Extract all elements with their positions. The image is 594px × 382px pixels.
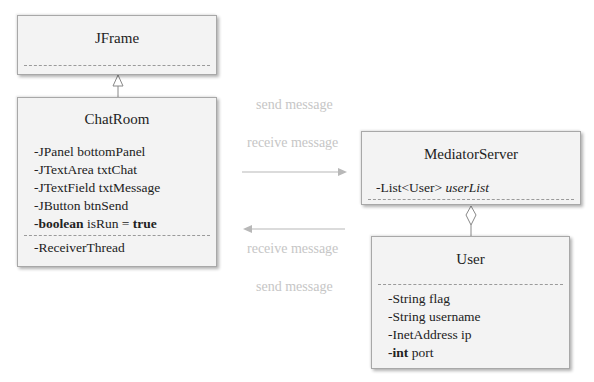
attribute-list: -JPanel bottomPanel -JTextArea txtChat -… — [34, 143, 160, 233]
class-name: User — [372, 251, 569, 268]
attr-type: InetAddress — [393, 327, 458, 342]
attribute-separator — [378, 284, 563, 285]
class-name: MediatorServer — [362, 146, 580, 163]
attr-name: btnSend — [84, 198, 128, 213]
attr-type: JTextArea — [39, 162, 94, 177]
attr-type: int — [393, 345, 409, 360]
label-receive-message-bottom: receive message — [247, 241, 338, 257]
attr-name: bottomPanel — [77, 144, 145, 159]
label-send-message-bottom: send message — [256, 279, 333, 295]
attribute: -boolean isRun = true — [34, 215, 160, 233]
attr-name: txtMessage — [99, 180, 161, 195]
attr-type: List<User> — [381, 180, 443, 195]
message-arrow-right — [242, 168, 347, 176]
message-arrow-left — [243, 225, 345, 233]
attr-default-value: true — [133, 216, 157, 231]
attribute: -List<User> userList — [376, 179, 489, 197]
attribute: -JTextArea txtChat — [34, 161, 160, 179]
aggregation-connector — [466, 206, 476, 236]
attr-type: JTextField — [39, 180, 96, 195]
attribute: -JPanel bottomPanel — [34, 143, 160, 161]
operation-separator — [24, 235, 210, 236]
class-chatroom[interactable]: ChatRoom -JPanel bottomPanel -JTextArea … — [17, 97, 217, 267]
attr-name: isRun — [87, 216, 119, 231]
generalization-arrow — [113, 75, 123, 97]
attr-name: port — [412, 345, 434, 360]
attr-name: flag — [429, 291, 450, 306]
attribute: -JTextField txtMessage — [34, 179, 160, 197]
attribute-separator — [368, 199, 574, 200]
attribute: -JButton btnSend — [34, 197, 160, 215]
attribute-list: -List<User> userList — [376, 179, 489, 197]
operation: -ReceiverThread — [34, 239, 125, 257]
attr-name: username — [429, 309, 481, 324]
attribute: -int port — [388, 344, 481, 362]
attr-type: JPanel — [39, 144, 74, 159]
attribute: -InetAddress ip — [388, 326, 481, 344]
attribute-separator — [24, 65, 210, 66]
class-user[interactable]: User -String flag -String username -Inet… — [371, 236, 570, 369]
attr-type: String — [393, 291, 426, 306]
class-mediatorserver[interactable]: MediatorServer -List<User> userList — [361, 131, 581, 205]
label-send-message-top: send message — [256, 97, 333, 113]
attr-name: txtChat — [97, 162, 137, 177]
class-name: ChatRoom — [18, 111, 216, 128]
attribute-list: -String flag -String username -InetAddre… — [388, 290, 481, 362]
attr-name: userList — [446, 180, 490, 195]
attr-type: String — [393, 309, 426, 324]
attribute: -String username — [388, 308, 481, 326]
attr-name: ip — [461, 327, 472, 342]
class-name: JFrame — [18, 30, 216, 47]
attr-type: boolean — [39, 216, 84, 231]
label-receive-message-top: receive message — [247, 135, 338, 151]
attr-assign: = — [122, 216, 130, 231]
class-jframe[interactable]: JFrame — [17, 15, 217, 75]
attr-type: JButton — [39, 198, 81, 213]
attribute: -String flag — [388, 290, 481, 308]
operation-list: -ReceiverThread — [34, 239, 125, 257]
